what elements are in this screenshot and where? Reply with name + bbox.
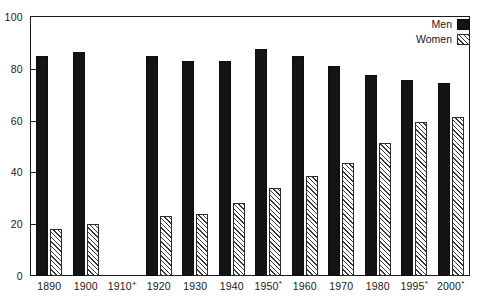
bar-group xyxy=(323,17,360,276)
hatched-swatch-icon xyxy=(457,34,470,45)
y-tick-mark xyxy=(30,224,36,225)
bar-men-1890 xyxy=(36,56,48,276)
bar-women-1960 xyxy=(306,176,318,276)
y-tick-label: 100 xyxy=(5,12,23,22)
x-label-footnote-marker: + xyxy=(132,279,137,288)
bar-women-1940 xyxy=(233,203,245,276)
bar-men-1995 xyxy=(401,80,413,276)
x-tick-label: 2000* xyxy=(433,280,470,292)
bar-group xyxy=(360,17,397,276)
bar-women-1980 xyxy=(379,143,391,276)
x-tick-label: 1970 xyxy=(323,280,360,292)
bar-women-1920 xyxy=(160,216,172,276)
x-tick-label: 1940 xyxy=(214,280,251,292)
bar-group xyxy=(287,17,324,276)
legend-item-women: Women xyxy=(416,33,470,45)
x-tick-label: 1920 xyxy=(141,280,178,292)
y-tick-label: 20 xyxy=(11,219,23,229)
bar-men-1930 xyxy=(182,61,194,276)
x-tick-label: 1930 xyxy=(177,280,214,292)
y-tick-label: 60 xyxy=(11,116,23,126)
bar-women-1900 xyxy=(87,224,99,276)
bar-women-2000 xyxy=(452,117,464,276)
bars-container xyxy=(31,17,469,276)
y-tick-label: 0 xyxy=(17,271,23,281)
chart-root: 100806040200 189019001910+19201930194019… xyxy=(0,0,484,308)
bar-group xyxy=(250,17,287,276)
bar-men-1900 xyxy=(73,52,85,276)
bar-men-2000 xyxy=(438,83,450,276)
bar-group xyxy=(31,17,68,276)
bar-group xyxy=(214,17,251,276)
y-tick-label: 80 xyxy=(11,64,23,74)
solid-black-swatch-icon xyxy=(457,19,470,30)
bar-group xyxy=(396,17,433,276)
chart-legend: Men Women xyxy=(416,18,470,45)
y-tick-label: 40 xyxy=(11,167,23,177)
x-axis: 189019001910+1920193019401950*1960197019… xyxy=(31,280,469,308)
clipped-title-strip xyxy=(60,0,390,4)
bar-group xyxy=(104,17,141,276)
bar-group xyxy=(433,17,470,276)
x-tick-label: 1960 xyxy=(287,280,324,292)
x-tick-label: 1980 xyxy=(360,280,397,292)
bar-women-1930 xyxy=(196,214,208,276)
x-label-footnote-marker: * xyxy=(461,279,464,288)
x-tick-label: 1910+ xyxy=(104,280,141,292)
bar-women-1950 xyxy=(269,188,281,276)
bar-men-1920 xyxy=(146,56,158,276)
x-label-footnote-marker: * xyxy=(279,279,282,288)
legend-label-women: Women xyxy=(416,33,452,45)
y-axis: 100806040200 xyxy=(0,0,30,308)
legend-label-men: Men xyxy=(432,18,452,30)
x-label-footnote-marker: * xyxy=(425,279,428,288)
bar-women-1890 xyxy=(50,229,62,276)
bar-men-1950 xyxy=(255,49,267,276)
bar-men-1970 xyxy=(328,66,340,276)
y-tick-mark xyxy=(30,121,36,122)
bar-group xyxy=(68,17,105,276)
bar-men-1960 xyxy=(292,56,304,276)
bar-group xyxy=(141,17,178,276)
bar-men-1940 xyxy=(219,61,231,276)
bar-men-1980 xyxy=(365,75,377,276)
x-tick-label: 1900 xyxy=(68,280,105,292)
bar-women-1995 xyxy=(415,122,427,276)
y-tick-mark xyxy=(30,172,36,173)
bar-women-1970 xyxy=(342,163,354,276)
legend-item-men: Men xyxy=(432,18,470,30)
x-tick-label: 1995* xyxy=(396,280,433,292)
y-tick-mark xyxy=(30,69,36,70)
x-tick-label: 1890 xyxy=(31,280,68,292)
bar-group xyxy=(177,17,214,276)
x-tick-label: 1950* xyxy=(250,280,287,292)
